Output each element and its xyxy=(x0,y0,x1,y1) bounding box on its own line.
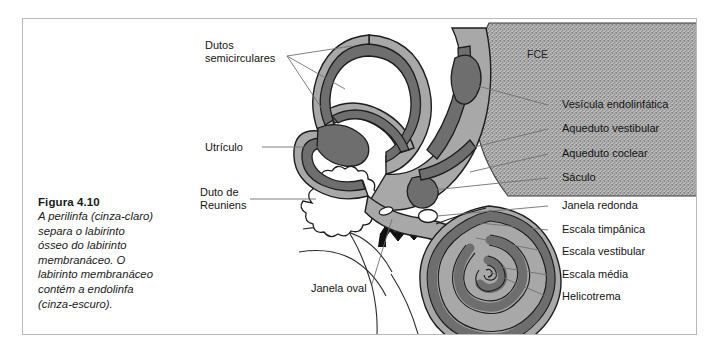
caption-line-3: ósseo do labirinto xyxy=(38,238,188,253)
label-escala-timpanica: Escala timpânica xyxy=(562,223,645,236)
label-line: Duto de xyxy=(200,186,246,199)
figure-number: Figura 4.10 xyxy=(38,196,188,208)
caption-line-4: membranáceo. O xyxy=(38,253,188,268)
label-fce: FCE xyxy=(527,48,548,61)
caption-line-6: contém a endolinfa xyxy=(38,282,188,297)
caption-line-2: separa o labirinto xyxy=(38,224,188,239)
caption-line-1: A perilinfa (cinza-claro) xyxy=(38,209,188,224)
label-dutos-semicirculares: Dutos semicirculares xyxy=(205,39,275,66)
figure-caption: Figura 4.10 A perilinfa (cinza-claro) se… xyxy=(38,196,188,311)
label-vesicula-endolinfatica: Vesícula endolinfática xyxy=(562,98,668,111)
label-line: Utrículo xyxy=(205,141,243,154)
label-escala-media: Escala média xyxy=(562,268,628,281)
label-janela-redonda: Janela redonda xyxy=(562,199,638,212)
caption-line-7: (cinza-escuro). xyxy=(38,297,188,312)
label-utriculo: Utrículo xyxy=(205,141,243,154)
label-duto-de-reuniens: Duto de Reuniens xyxy=(200,186,246,213)
figure-screenshot: Figura 4.10 A perilinfa (cinza-claro) se… xyxy=(0,0,719,352)
label-janela-oval: Janela oval xyxy=(311,282,367,295)
label-aqueduto-coclear: Aqueduto coclear xyxy=(562,147,648,160)
label-line: Reuniens xyxy=(200,199,246,212)
label-escala-vestibular: Escala vestibular xyxy=(562,245,645,258)
label-saculo: Sáculo xyxy=(562,171,596,184)
caption-line-5: labirinto membranáceo xyxy=(38,267,188,282)
label-line: semicirculares xyxy=(205,52,275,65)
label-line: Dutos xyxy=(205,39,275,52)
label-aqueduto-vestibular: Aqueduto vestibular xyxy=(562,122,659,135)
label-helicotrema: Helicotrema xyxy=(562,290,621,303)
label-line: Janela oval xyxy=(311,282,367,295)
